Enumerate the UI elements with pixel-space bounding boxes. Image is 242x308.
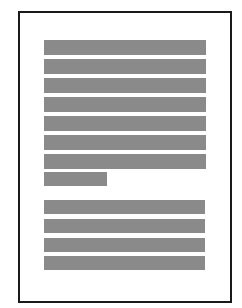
paragraph-1-line-3 <box>44 78 206 93</box>
paragraph-1-line-7 <box>44 154 206 169</box>
paragraph-1-line-5 <box>44 116 206 131</box>
paragraph-1-line-2 <box>44 59 206 74</box>
paragraph-1-line-4 <box>44 97 206 112</box>
paragraph-2-line-2 <box>44 219 205 233</box>
paragraph-1-line-6 <box>44 135 206 150</box>
paragraph-1-line-1 <box>44 40 206 55</box>
paragraph-2-line-3 <box>44 238 205 252</box>
paragraph-1-line-8 <box>44 172 107 186</box>
paragraph-2-line-1 <box>44 200 205 214</box>
paragraph-2-line-4 <box>44 256 205 270</box>
